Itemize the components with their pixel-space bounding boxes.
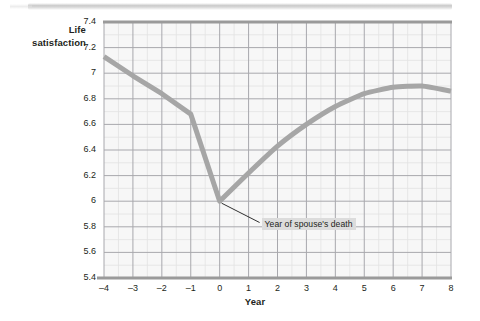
y-axis-tick-label: 7.4 <box>62 16 96 26</box>
x-axis-tick-label: 8 <box>438 283 464 293</box>
y-axis-tick-label: 7 <box>62 67 96 77</box>
x-axis-tick-label: –2 <box>149 283 175 293</box>
x-axis-tick-label: 7 <box>409 283 435 293</box>
y-axis-tick-label: 6.6 <box>62 118 96 128</box>
x-axis-tick-label: 1 <box>236 283 262 293</box>
y-axis-tick-label: 7.2 <box>62 42 96 52</box>
x-axis-tick-label: 3 <box>293 283 319 293</box>
y-axis-tick-label: 6.4 <box>62 144 96 154</box>
y-axis-tick-label: 5.4 <box>62 272 96 282</box>
chart-figure: Life satisfaction Year 5.45.65.866.26.46… <box>0 0 480 321</box>
x-axis-tick-label: –3 <box>120 283 146 293</box>
x-axis-tick-label: –1 <box>178 283 204 293</box>
x-axis-tick-label: 6 <box>380 283 406 293</box>
x-axis-tick-label: 4 <box>322 283 348 293</box>
x-axis-tick-label: 5 <box>351 283 377 293</box>
y-axis-tick-label: 6.2 <box>62 170 96 180</box>
y-axis-tick-label: 6.8 <box>62 93 96 103</box>
y-axis-tick-label: 5.6 <box>62 246 96 256</box>
x-axis-tick-label: –4 <box>91 283 117 293</box>
y-axis-tick-label: 5.8 <box>62 221 96 231</box>
x-axis-tick-label: 0 <box>207 283 233 293</box>
x-axis-tick-label: 2 <box>265 283 291 293</box>
annotation-label: Year of spouse's death <box>262 218 356 231</box>
y-axis-tick-label: 6 <box>62 195 96 205</box>
